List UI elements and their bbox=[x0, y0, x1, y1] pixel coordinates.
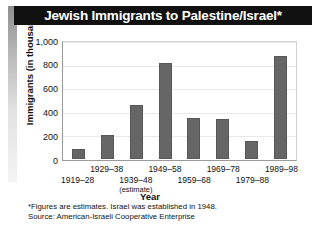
bar-slot bbox=[151, 43, 180, 159]
x-axis-title: Year bbox=[120, 191, 180, 202]
x-tick-label: 1959–68 bbox=[168, 175, 220, 185]
y-tick-label: 600 bbox=[18, 84, 58, 94]
footnotes: *Figures are estimates. Israel was estab… bbox=[28, 202, 312, 222]
x-tick-label: 1969–78 bbox=[197, 164, 249, 174]
bar-slot bbox=[93, 43, 122, 159]
bar[interactable] bbox=[274, 56, 287, 159]
bar[interactable] bbox=[216, 119, 229, 159]
x-tick-label: 1989–98 bbox=[255, 164, 307, 174]
bar-slot bbox=[237, 43, 266, 159]
footnote-estimates: *Figures are estimates. Israel was estab… bbox=[28, 202, 312, 212]
plot-wrapper bbox=[62, 41, 297, 161]
bar-slot bbox=[208, 43, 237, 159]
bar-slot bbox=[64, 43, 93, 159]
x-tick-label: 1929–38 bbox=[81, 164, 133, 174]
y-tick-label: 200 bbox=[18, 132, 58, 142]
bar[interactable] bbox=[187, 118, 200, 159]
x-axis-tick-labels: 1919–281929–381939–48(estimate)1949–5819… bbox=[62, 163, 297, 193]
y-tick-label: 1,000 bbox=[18, 37, 58, 47]
x-tick-label: 1919–28 bbox=[52, 175, 104, 185]
bar[interactable] bbox=[101, 135, 114, 159]
y-axis-tick-labels: 1,0008006004002000 bbox=[16, 41, 58, 161]
bar-slot bbox=[122, 43, 151, 159]
bar[interactable] bbox=[72, 149, 85, 159]
bar-slot bbox=[180, 43, 209, 159]
x-tick-label: 1949–58 bbox=[139, 164, 191, 174]
bar-series bbox=[64, 43, 295, 159]
bar[interactable] bbox=[130, 105, 143, 159]
y-tick-label: 0 bbox=[18, 156, 58, 166]
page-title: Jewish Immigrants to Palestine/Israel* bbox=[14, 6, 312, 25]
y-tick-label: 800 bbox=[18, 60, 58, 70]
bar[interactable] bbox=[159, 63, 172, 159]
y-tick-label: 400 bbox=[18, 108, 58, 118]
footnote-source: Source: American-Israeli Cooperative Ent… bbox=[28, 212, 312, 222]
title-banner: Jewish Immigrants to Palestine/Israel* bbox=[14, 6, 312, 25]
bar[interactable] bbox=[245, 141, 258, 159]
bar-slot bbox=[266, 43, 295, 159]
plot-area bbox=[62, 41, 297, 161]
chart-figure: Jewish Immigrants to Palestine/Israel* I… bbox=[0, 0, 319, 225]
x-tick-label: 1979–88 bbox=[226, 175, 278, 185]
